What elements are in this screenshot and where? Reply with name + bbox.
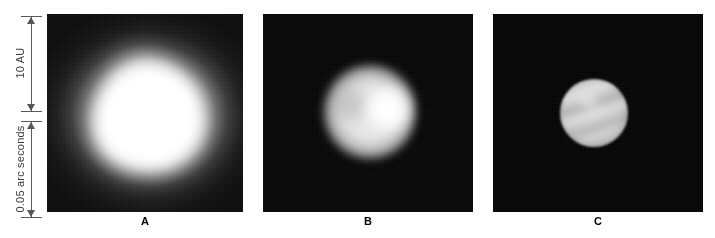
panel-caption-c: C — [493, 215, 703, 227]
panel-b-bright-lobe — [368, 87, 410, 131]
scale-bar-line — [31, 16, 32, 112]
scale-bar-label-wrap: 10 AU — [14, 16, 28, 112]
panel-caption-a: A — [47, 215, 243, 227]
arrow-up-icon — [27, 122, 35, 129]
panel-b-dark-region — [332, 85, 370, 125]
image-panel-a — [47, 14, 243, 212]
scale-bar-line — [31, 121, 32, 218]
scale-bar-10-au: 10 AU — [0, 16, 46, 112]
scale-bar-label-wrap: 0.05 arc seconds — [14, 121, 28, 218]
image-panel-b — [263, 14, 473, 212]
scale-bar-axis: 10 AU 0.05 arc seconds — [0, 0, 46, 238]
panel-a-tip — [108, 42, 175, 109]
arrow-down-icon — [27, 210, 35, 217]
image-panel-c — [493, 14, 703, 212]
arrow-down-icon — [27, 104, 35, 111]
panel-caption-b: B — [263, 215, 473, 227]
figure-container: 10 AU 0.05 arc seconds A B — [0, 0, 715, 238]
panel-c-limb-darkening — [560, 79, 628, 147]
scale-bar-arc-seconds: 0.05 arc seconds — [0, 121, 46, 218]
scale-bar-label-au: 10 AU — [14, 48, 26, 81]
panel-c-disk — [560, 79, 628, 147]
arrow-up-icon — [27, 17, 35, 24]
scale-bar-label-arcsec: 0.05 arc seconds — [14, 125, 26, 214]
